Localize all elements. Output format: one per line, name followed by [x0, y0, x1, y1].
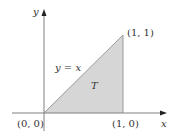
triangle-region-diagram: y x (1, 1) (0, 0) (1, 0) y = x T — [0, 0, 182, 138]
point-label-bottom-right: (1, 0) — [112, 118, 139, 129]
point-label-origin: (0, 0) — [17, 118, 44, 129]
point-label-top-right: (1, 1) — [127, 27, 154, 38]
x-axis-label: x — [161, 118, 167, 129]
y-axis-arrow-icon — [42, 9, 47, 16]
x-axis-arrow-icon — [160, 111, 167, 116]
line-label: y = x — [54, 62, 81, 73]
y-axis-label: y — [32, 6, 39, 17]
